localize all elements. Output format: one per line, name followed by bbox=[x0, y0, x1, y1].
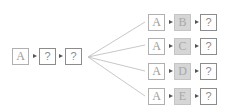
arrow-icon bbox=[169, 20, 173, 24]
arrow-icon bbox=[195, 44, 199, 48]
branch-3-token-2: D bbox=[174, 63, 191, 80]
branch-3-token-3: ? bbox=[200, 63, 217, 80]
branch-4-token-3: ? bbox=[200, 88, 217, 105]
source-token-3: ? bbox=[65, 48, 82, 65]
branch-4-token-2: E bbox=[174, 88, 191, 105]
branch-1-token-2: B bbox=[174, 14, 191, 31]
arrow-icon bbox=[59, 54, 63, 58]
branching-sequence-diagram: A ? ? A B ? A C ? A D ? A E ? bbox=[0, 0, 231, 110]
source-token-2: ? bbox=[39, 48, 56, 65]
branch-3-token-1: A bbox=[148, 63, 165, 80]
arrow-icon bbox=[195, 94, 199, 98]
branch-1-token-3: ? bbox=[200, 14, 217, 31]
branch-2-token-3: ? bbox=[200, 38, 217, 55]
branch-2-token-2: C bbox=[174, 38, 191, 55]
source-token-1: A bbox=[12, 48, 29, 65]
branch-4-token-1: A bbox=[148, 88, 165, 105]
arrow-icon bbox=[169, 44, 173, 48]
branch-1-token-1: A bbox=[148, 14, 165, 31]
arrow-icon bbox=[169, 94, 173, 98]
arrow-icon bbox=[33, 54, 37, 58]
arrow-icon bbox=[169, 69, 173, 73]
branch-2-token-1: A bbox=[148, 38, 165, 55]
arrow-icon bbox=[195, 69, 199, 73]
arrow-icon bbox=[195, 20, 199, 24]
